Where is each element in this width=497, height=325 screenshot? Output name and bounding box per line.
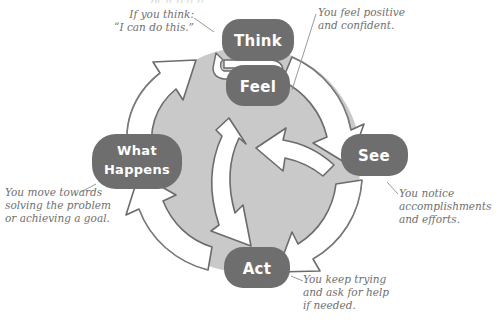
leader-line-see (387, 182, 398, 194)
node-think-label: Think (234, 32, 283, 50)
node-what-happens-label-line1: What (117, 143, 157, 158)
node-act[interactable]: Act (224, 247, 290, 288)
node-think[interactable]: Think (222, 19, 294, 61)
what-happens-annotation: You move towards solving the problem or … (5, 186, 130, 226)
feel-annotation: You feel positive and confident. (318, 6, 448, 32)
node-see[interactable]: See (341, 134, 408, 176)
think-annotation: If you think: “I can do this.” (98, 8, 194, 34)
see-annotation: You notice accomplishments and efforts. (399, 187, 497, 227)
node-feel-label: Feel (240, 78, 276, 96)
cycle-diagram: Think Feel See Act What Happens (0, 0, 497, 325)
node-what-happens[interactable]: What Happens (92, 134, 182, 189)
node-what-happens-label-line2: Happens (104, 162, 170, 177)
leader-line-act (291, 276, 303, 281)
node-act-label: Act (243, 260, 272, 278)
act-annotation: You keep trying and ask for help if need… (303, 273, 408, 313)
leader-line-think (194, 18, 214, 32)
diagram-canvas: pt n p g g (0, 0, 497, 325)
node-feel[interactable]: Feel (226, 65, 290, 106)
node-see-label: See (358, 147, 390, 165)
